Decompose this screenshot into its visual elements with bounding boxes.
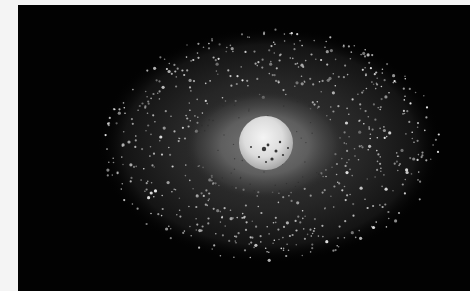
nebula-cell-image xyxy=(18,5,470,291)
image-frame xyxy=(18,5,470,291)
